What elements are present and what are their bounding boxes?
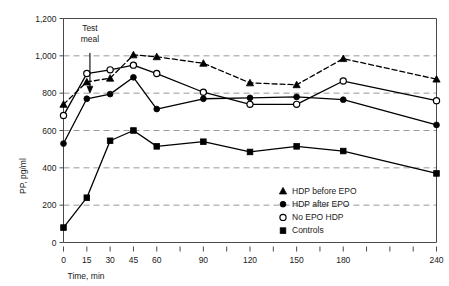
data-point-0-7	[293, 81, 300, 88]
legend-marker-0	[279, 187, 286, 194]
data-point-2-7	[294, 101, 300, 107]
data-point-1-0	[61, 141, 67, 147]
data-point-1-8	[340, 97, 346, 103]
gridlines-group	[64, 56, 437, 205]
data-point-2-9	[433, 98, 439, 104]
pp-timecourse-line-chart: 02004006008001,0001,200 0153045609012015…	[0, 0, 449, 286]
data-point-3-3	[131, 128, 137, 134]
data-point-0-4	[153, 53, 160, 60]
data-point-3-2	[107, 138, 113, 144]
y-tick-label-0: 0	[52, 238, 57, 248]
x-tick-label-30: 30	[105, 255, 115, 265]
test-meal-label-line-0: Test	[82, 23, 98, 33]
data-point-2-4	[154, 70, 160, 76]
y-tick-label-1200: 1,200	[35, 14, 57, 24]
legend-label-0: HDP before EPO	[292, 186, 357, 196]
data-point-2-5	[200, 89, 206, 95]
y-tick-labels-group: 02004006008001,0001,200	[35, 14, 57, 248]
legend-group: HDP before EPOHDP after EPONo EPO HDPCon…	[279, 186, 357, 236]
data-point-1-7	[294, 94, 300, 100]
data-point-3-1	[84, 195, 90, 201]
data-point-3-6	[247, 149, 253, 155]
data-point-1-2	[107, 91, 113, 97]
y-tick-label-600: 600	[42, 126, 56, 136]
series-controls	[61, 128, 440, 231]
data-point-1-4	[154, 106, 160, 112]
data-point-1-1	[84, 96, 90, 102]
data-point-1-9	[434, 122, 440, 128]
data-point-3-0	[61, 225, 67, 231]
data-point-3-4	[154, 144, 160, 150]
x-tick-label-60: 60	[152, 255, 162, 265]
data-point-2-1	[84, 70, 90, 76]
test-meal-label-line-1: meal	[81, 34, 100, 44]
x-tick-label-150: 150	[290, 255, 304, 265]
x-tick-labels-group: 01530456090120150180240	[61, 255, 444, 265]
y-tick-label-800: 800	[42, 88, 56, 98]
legend-label-3: Controls	[292, 225, 324, 235]
x-tick-label-90: 90	[199, 255, 209, 265]
y-tick-label-400: 400	[42, 163, 56, 173]
data-point-2-0	[60, 112, 66, 118]
x-axis-title: Time, min	[68, 271, 105, 281]
data-point-2-3	[130, 62, 136, 68]
data-point-3-8	[340, 148, 346, 154]
data-point-1-3	[131, 74, 137, 80]
x-tick-label-240: 240	[429, 255, 443, 265]
x-tick-label-0: 0	[61, 255, 66, 265]
chart-container: 02004006008001,0001,200 0153045609012015…	[0, 0, 449, 286]
x-tick-label-15: 15	[82, 255, 92, 265]
legend-marker-3	[280, 228, 286, 234]
data-point-3-9	[434, 171, 440, 177]
data-point-2-6	[247, 101, 253, 107]
annotations-group: Testmeal	[81, 23, 100, 94]
data-point-3-7	[294, 144, 300, 150]
y-tick-label-200: 200	[42, 200, 56, 210]
test-meal-arrow-head	[87, 86, 93, 93]
series-group	[60, 51, 440, 230]
x-tick-label-180: 180	[336, 255, 350, 265]
data-point-3-5	[201, 139, 207, 145]
axes-group	[60, 19, 437, 252]
legend-marker-1	[280, 201, 286, 207]
series-line-3	[64, 131, 437, 228]
legend-label-2: No EPO HDP	[292, 212, 344, 222]
data-point-2-2	[107, 67, 113, 73]
legend-label-1: HDP after EPO	[292, 199, 350, 209]
data-point-1-5	[200, 96, 206, 102]
x-tick-label-45: 45	[129, 255, 139, 265]
series-line-1	[64, 77, 437, 143]
y-tick-label-1000: 1,000	[35, 51, 57, 61]
data-point-2-8	[340, 78, 346, 84]
y-axis-title: PP, pg/ml	[18, 158, 28, 194]
x-tick-label-120: 120	[243, 255, 257, 265]
legend-marker-2	[280, 214, 286, 220]
data-point-1-6	[247, 95, 253, 101]
